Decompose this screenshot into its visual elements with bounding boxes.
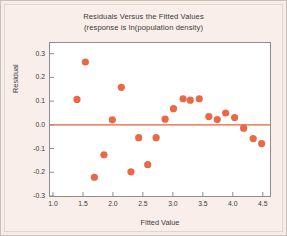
data-point	[187, 97, 194, 104]
chart-title: Residuals Versus the Fitted Values	[5, 12, 282, 23]
y-tick-label: -0.1	[15, 145, 45, 152]
x-tick-label: 3.5	[189, 200, 217, 207]
data-point	[73, 96, 80, 103]
data-point	[127, 168, 134, 175]
data-point	[222, 109, 229, 116]
data-point	[153, 134, 160, 141]
data-point	[170, 105, 177, 112]
y-tick-label: -0.2	[15, 168, 45, 175]
data-point	[258, 140, 265, 147]
y-tick-label: 0.1	[15, 97, 45, 104]
x-axis-title: Fitted Value	[49, 218, 271, 227]
data-point	[109, 116, 116, 123]
data-point	[205, 113, 212, 120]
data-point	[100, 151, 107, 158]
data-point	[118, 84, 125, 91]
x-tick-label: 4.0	[219, 200, 247, 207]
x-tick-label: 4.5	[249, 200, 277, 207]
data-point	[144, 161, 151, 168]
plot-area	[49, 42, 271, 197]
y-axis-title: Residual	[11, 64, 20, 93]
data-point	[250, 135, 257, 142]
data-point	[161, 116, 168, 123]
chart-subtitle: (response is ln(population density)	[5, 23, 282, 34]
chart-title-block: Residuals Versus the Fitted Values (resp…	[5, 12, 282, 33]
x-tick-label: 1.5	[69, 200, 97, 207]
data-point	[231, 114, 238, 121]
y-tick-label: 0.0	[15, 121, 45, 128]
data-point	[196, 95, 203, 102]
x-tick-label: 2.5	[129, 200, 157, 207]
data-point	[82, 58, 89, 65]
data-point	[214, 116, 221, 123]
y-tick-label: -0.3	[15, 192, 45, 199]
chart-panel: Residuals Versus the Fitted Values (resp…	[4, 4, 283, 232]
data-point	[240, 125, 247, 132]
chart-page: Residuals Versus the Fitted Values (resp…	[0, 0, 287, 236]
x-tick-label: 3.0	[159, 200, 187, 207]
x-tick-label: 2.0	[99, 200, 127, 207]
x-tick-label: 1.0	[39, 200, 67, 207]
data-point	[135, 134, 142, 141]
data-point	[91, 174, 98, 181]
scatter-plot-svg	[50, 43, 270, 196]
data-point	[179, 95, 186, 102]
y-tick-label: 0.3	[15, 50, 45, 57]
